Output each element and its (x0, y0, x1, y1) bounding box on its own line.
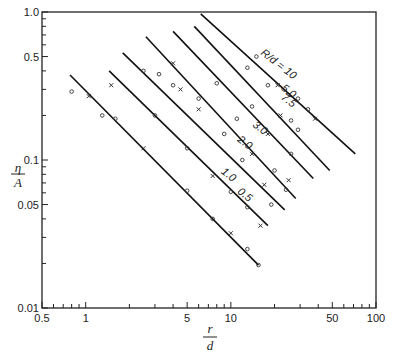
cross-marker (179, 87, 183, 91)
circle-marker (185, 189, 189, 193)
circle-marker (215, 81, 219, 85)
circle-marker (222, 132, 226, 136)
y-tick-label: 0.1 (24, 154, 39, 166)
circle-marker (157, 72, 161, 76)
legend-header: R/d = 10 (259, 46, 300, 82)
x-tick-label: 5 (184, 312, 190, 324)
y-tick-label: 0.05 (18, 199, 39, 211)
curve-7.5 (194, 26, 329, 170)
cross-marker (229, 231, 233, 235)
circle-marker (255, 55, 259, 59)
cross-marker (258, 224, 262, 228)
cross-marker (279, 113, 283, 117)
cross-marker (262, 183, 266, 187)
svg-text:r: r (207, 321, 213, 336)
svg-text:A: A (13, 175, 22, 190)
svg-text:η: η (15, 160, 21, 175)
cross-marker (211, 174, 215, 178)
circle-marker (273, 169, 277, 173)
x-tick-label: 50 (326, 312, 338, 324)
y-axis-ticks: 0.010.050.10.51.0 (18, 6, 48, 314)
circle-marker (70, 90, 74, 94)
cross-marker (109, 83, 113, 87)
circle-marker (246, 66, 250, 70)
x-tick-label: 100 (367, 312, 385, 324)
loglog-chart: 0.5151050100 0.010.050.10.51.0 0.51.02.0… (0, 0, 398, 357)
x-tick-label: 10 (225, 312, 237, 324)
circle-marker (197, 97, 201, 101)
circle-marker (289, 119, 293, 123)
circle-marker (241, 158, 245, 162)
x-axis-label: r d (203, 321, 217, 353)
svg-text:d: d (207, 338, 214, 353)
curve-label-0.5: 0.5 (236, 185, 256, 204)
circle-marker (171, 83, 175, 87)
circle-marker (257, 263, 261, 267)
y-tick-label: 0.01 (18, 302, 39, 314)
circle-marker (270, 203, 274, 207)
circle-marker (100, 114, 104, 118)
cross-marker (266, 132, 270, 136)
cross-marker (197, 107, 201, 111)
circle-marker (246, 247, 250, 251)
x-tick-label: 1 (83, 312, 89, 324)
circle-marker (266, 83, 270, 87)
curves (70, 14, 355, 265)
y-tick-label: 0.5 (24, 51, 39, 63)
cross-marker (171, 61, 175, 65)
cross-marker (287, 178, 291, 182)
y-tick-label: 1.0 (24, 6, 39, 18)
circle-marker (235, 117, 239, 121)
circle-marker (296, 128, 300, 132)
circle-marker (250, 105, 254, 109)
plot-frame (42, 12, 376, 308)
